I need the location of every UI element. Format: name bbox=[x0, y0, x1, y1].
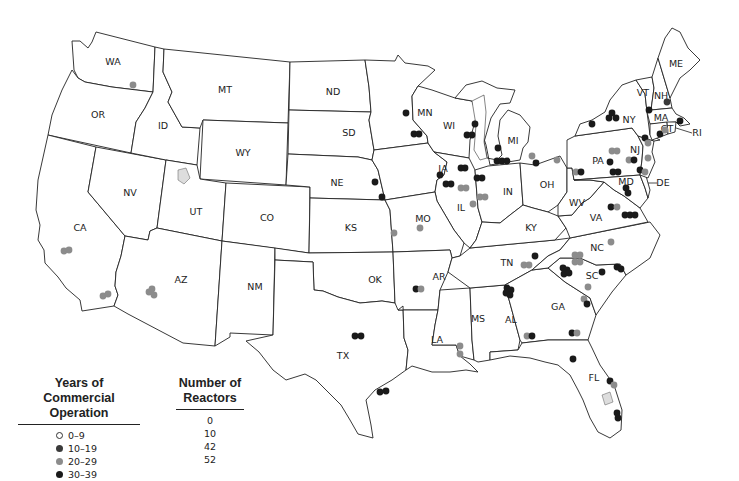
reactor-dot-icon bbox=[457, 351, 464, 358]
state-label-ks: KS bbox=[345, 222, 357, 233]
state-label-mo: MO bbox=[415, 213, 431, 224]
state-label-nm: NM bbox=[247, 281, 262, 292]
state-label-id: ID bbox=[158, 120, 168, 131]
lake-michigan bbox=[472, 95, 487, 160]
state-label-sd: SD bbox=[342, 127, 355, 138]
state-label-oh: OH bbox=[540, 179, 555, 190]
reactor-dot-icon bbox=[149, 286, 156, 293]
state-label-tx: TX bbox=[336, 350, 350, 361]
reactor-dot-icon bbox=[462, 165, 469, 172]
legend-dot-icon bbox=[56, 432, 63, 439]
state-label-az: AZ bbox=[174, 274, 187, 285]
state-label-wa: WA bbox=[105, 56, 121, 67]
legend-range: 30–39 bbox=[68, 468, 97, 481]
legend-count: 42 bbox=[204, 440, 216, 453]
reactor-dot-icon bbox=[482, 194, 489, 201]
reactor-dot-icon bbox=[504, 158, 511, 165]
reactor-dot-icon bbox=[645, 155, 652, 162]
reactor-dot-icon bbox=[463, 185, 470, 192]
legend-range: 10–19 bbox=[68, 442, 97, 455]
legend-row-30-39: 30–39 bbox=[18, 468, 140, 481]
reactor-dot-icon bbox=[585, 284, 592, 291]
legend-dot-icon bbox=[56, 458, 63, 465]
reactor-dot-icon bbox=[470, 201, 477, 208]
state-label-ca: CA bbox=[73, 222, 87, 233]
reactor-dot-icon bbox=[377, 389, 384, 396]
legend-years-header-line2: Operation bbox=[18, 406, 140, 421]
reactor-dot-icon bbox=[66, 247, 73, 254]
state-label-ut: UT bbox=[190, 206, 203, 217]
reactor-dot-icon bbox=[418, 286, 425, 293]
reactor-dot-icon bbox=[379, 194, 386, 201]
state-label-mi: MI bbox=[508, 135, 519, 146]
legend-count-header-line1: Number of bbox=[176, 376, 244, 391]
reactor-dot-icon bbox=[625, 190, 632, 197]
state-label-vt: VT bbox=[637, 87, 649, 98]
state-label-me: ME bbox=[669, 58, 683, 69]
reactor-dot-icon bbox=[417, 225, 424, 232]
state-label-ma: MA bbox=[654, 112, 669, 123]
reactor-dot-icon bbox=[611, 382, 618, 389]
state-label-tn: TN bbox=[500, 257, 514, 268]
reactor-dot-icon bbox=[391, 230, 398, 237]
reactor-dot-icon bbox=[529, 333, 536, 340]
state-label-wi: WI bbox=[443, 120, 455, 131]
reactor-dot-icon bbox=[577, 252, 584, 259]
legend-count-0-9: 0 bbox=[176, 414, 244, 427]
reactor-dot-icon bbox=[479, 175, 486, 182]
legend-count-rows: 0 10 42 52 bbox=[176, 414, 244, 466]
reactor-dot-icon bbox=[608, 239, 615, 246]
reactor-dot-icon bbox=[615, 169, 622, 176]
reactor-dot-icon bbox=[437, 172, 444, 179]
reactor-dot-icon bbox=[105, 291, 112, 298]
legend-years-column: Years of Commercial Operation 0–9 10–19 … bbox=[18, 376, 140, 481]
state-label-sc: SC bbox=[586, 270, 599, 281]
reactor-dot-icon bbox=[574, 330, 581, 337]
state-sd bbox=[288, 110, 374, 160]
ri-leader-line bbox=[676, 128, 692, 133]
legend-count: 52 bbox=[204, 453, 216, 466]
reactor-dot-icon bbox=[662, 127, 669, 134]
legend-row-0-9: 0–9 bbox=[18, 429, 140, 442]
state-label-mt: MT bbox=[218, 84, 232, 95]
state-label-ar: AR bbox=[432, 271, 445, 282]
reactor-dot-icon bbox=[577, 259, 584, 266]
state-label-nc: NC bbox=[590, 242, 604, 253]
state-label-fl: FL bbox=[589, 372, 600, 383]
reactor-dot-icon bbox=[566, 270, 573, 277]
legend-years-header: Years of Commercial Operation bbox=[18, 376, 140, 425]
reactor-dot-icon bbox=[599, 269, 606, 276]
reactor-dot-icon bbox=[448, 181, 455, 188]
legend-count: 10 bbox=[204, 427, 216, 440]
legend-row-10-19: 10–19 bbox=[18, 442, 140, 455]
state-label-in: IN bbox=[503, 186, 513, 197]
reactor-dot-icon bbox=[507, 292, 514, 299]
state-label-wv: WV bbox=[569, 197, 585, 208]
state-label-al: AL bbox=[505, 314, 517, 325]
reactor-dot-icon bbox=[664, 99, 671, 106]
reactor-dot-icon bbox=[645, 140, 652, 147]
legend-count: 0 bbox=[207, 414, 213, 427]
state-label-va: VA bbox=[590, 212, 603, 223]
reactor-dot-icon bbox=[457, 343, 464, 350]
legend-count-header-line2: Reactors bbox=[176, 391, 244, 406]
reactor-dot-icon bbox=[469, 132, 476, 139]
reactor-dot-icon bbox=[631, 157, 638, 164]
state-label-mn: MN bbox=[417, 107, 432, 118]
reactor-dot-icon bbox=[584, 301, 591, 308]
reactor-dot-icon bbox=[570, 356, 577, 363]
reactor-dot-icon bbox=[533, 160, 540, 167]
reactor-dot-icon bbox=[615, 415, 622, 422]
reactor-dot-icon bbox=[646, 107, 653, 114]
legend-dot-icon bbox=[56, 471, 63, 478]
state-label-pa: PA bbox=[592, 155, 604, 166]
state-label-ne: NE bbox=[330, 177, 343, 188]
reactor-dot-icon bbox=[495, 145, 502, 152]
reactor-dot-icon bbox=[578, 169, 585, 176]
state-nm bbox=[215, 241, 275, 346]
reactor-dot-icon bbox=[589, 121, 596, 128]
reactor-dot-icon bbox=[607, 159, 614, 166]
state-label-nj: NJ bbox=[630, 144, 640, 155]
state-label-ri: RI bbox=[692, 127, 701, 138]
legend-count-10-19: 10 bbox=[176, 427, 244, 440]
